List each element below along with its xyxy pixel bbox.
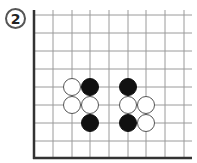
black-stone bbox=[82, 115, 99, 132]
white-stone bbox=[138, 115, 155, 132]
white-stone bbox=[64, 97, 81, 114]
black-stone bbox=[82, 79, 99, 96]
white-stone bbox=[120, 97, 137, 114]
black-stone bbox=[120, 79, 137, 96]
go-board bbox=[0, 0, 197, 163]
grid-lines bbox=[34, 10, 192, 158]
board-edges bbox=[33, 10, 192, 159]
white-stone bbox=[82, 97, 99, 114]
white-stone bbox=[64, 79, 81, 96]
white-stone bbox=[138, 97, 155, 114]
black-stone bbox=[120, 115, 137, 132]
